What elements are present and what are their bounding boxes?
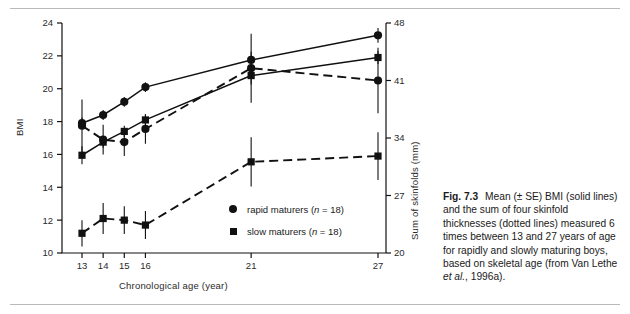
y-axis-label-left: BMI (14, 119, 25, 137)
chart-plot: 10121416182022242027344148131415162127 (0, 8, 410, 300)
y-tick-label-right: 34 (394, 132, 405, 143)
y-tick-label-left: 20 (42, 83, 53, 94)
x-axis-label: Chronological age (year) (119, 280, 228, 291)
series-solid-circle (78, 28, 382, 129)
y-tick-label-left: 16 (42, 149, 53, 160)
y-tick-label-left: 10 (42, 247, 53, 258)
series-dashed-circle (78, 34, 382, 156)
x-tick-label: 27 (373, 260, 384, 271)
y-axis-label-right: Sum of skinfolds (mm) (409, 141, 420, 240)
caption-italic: et al. (443, 271, 465, 282)
legend-item-slow: slow maturers (n = 18) (226, 220, 386, 242)
y-tick-label-left: 22 (42, 50, 53, 61)
caption-tail: , 1996a). (465, 271, 505, 282)
x-tick-label: 13 (77, 260, 88, 271)
y-tick-label-left: 14 (42, 182, 53, 193)
circle-marker-icon (226, 205, 240, 213)
figure-caption: Fig. 7.3Mean (± SE) BMI (solid lines) an… (443, 190, 621, 284)
y-tick-label-right: 41 (394, 75, 405, 86)
caption-label: Fig. 7.3 (443, 191, 478, 202)
y-tick-label-right: 27 (394, 190, 405, 201)
x-tick-label: 15 (119, 260, 130, 271)
chart-figure: 10121416182022242027344148131415162127 B… (0, 8, 410, 300)
caption-body: Mean (± SE) BMI (solid lines) and the su… (443, 191, 618, 269)
legend-item-rapid: rapid maturers (n = 18) (226, 198, 386, 220)
y-tick-label-right: 48 (394, 17, 405, 28)
legend-label-slow: slow maturers (n = 18) (247, 226, 342, 237)
bottom-rule (10, 304, 620, 305)
y-tick-label-left: 12 (42, 215, 53, 226)
y-tick-label-left: 18 (42, 116, 53, 127)
y-tick-label-right: 20 (394, 247, 405, 258)
x-tick-label: 16 (140, 260, 151, 271)
square-marker-icon (226, 228, 240, 235)
figure-page: 10121416182022242027344148131415162127 B… (0, 0, 630, 314)
x-tick-label: 21 (246, 260, 257, 271)
legend-label-rapid: rapid maturers (n = 18) (247, 204, 344, 215)
x-tick-label: 14 (98, 260, 109, 271)
y-tick-label-left: 24 (42, 17, 53, 28)
chart-legend: rapid maturers (n = 18) slow maturers (n… (226, 198, 386, 242)
